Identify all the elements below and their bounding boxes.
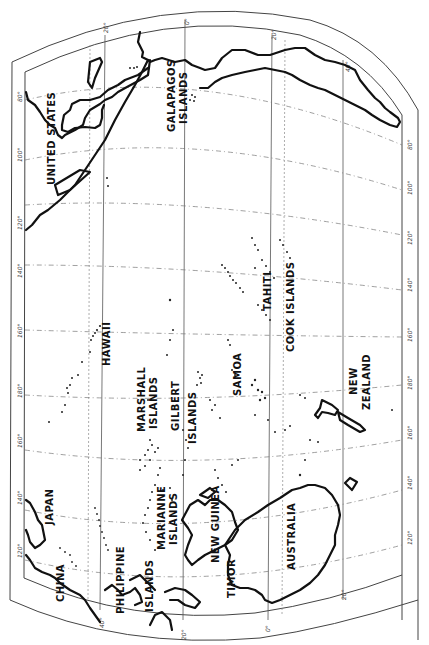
label-tahiti: TAHITI bbox=[262, 272, 273, 311]
svg-text:160°: 160° bbox=[406, 426, 413, 440]
coast-tasmania bbox=[345, 478, 357, 490]
svg-text:100°: 100° bbox=[16, 148, 23, 162]
coast-borneo bbox=[165, 588, 200, 608]
svg-text:80°: 80° bbox=[406, 139, 413, 150]
label-marianne-islands: ISLANDS bbox=[168, 493, 179, 545]
svg-text:20°: 20° bbox=[340, 589, 347, 600]
svg-text:120°: 120° bbox=[406, 231, 413, 245]
label-japan: JAPAN bbox=[44, 489, 55, 526]
svg-text:20°: 20° bbox=[270, 29, 277, 40]
label-philippine-islands: ISLANDS bbox=[144, 560, 155, 612]
label-united-states: UNITED STATES bbox=[46, 92, 57, 185]
svg-text:0°: 0° bbox=[264, 625, 271, 632]
coast-florida bbox=[88, 58, 102, 88]
label-australia: AUSTRALIA bbox=[286, 503, 297, 570]
coast-new-zealand-south bbox=[338, 412, 365, 432]
label-samoa: SAMOA bbox=[232, 353, 243, 396]
label-china: CHINA bbox=[55, 564, 66, 602]
label-timor: TIMOR bbox=[226, 559, 237, 598]
label-hawaii: HAWAII bbox=[101, 322, 112, 366]
coast-japan bbox=[26, 500, 45, 548]
longitude-tick-labels-left: 80° 100° 120° 140° 160° 180° 160° 140° 1… bbox=[16, 91, 23, 558]
label-cook-islands: COOK ISLANDS bbox=[285, 262, 296, 352]
label-galapagos-islands: ISLANDS bbox=[178, 72, 189, 124]
label-new-guinea: NEW GUINEA bbox=[210, 485, 221, 563]
svg-text:100°: 100° bbox=[406, 181, 413, 195]
svg-text:160°: 160° bbox=[406, 328, 413, 342]
svg-text:120°: 120° bbox=[16, 544, 23, 558]
label-new: NEW bbox=[348, 367, 359, 395]
label-marianne: MARIANNE bbox=[156, 486, 167, 550]
svg-text:140°: 140° bbox=[406, 278, 413, 292]
svg-text:180°: 180° bbox=[16, 384, 23, 398]
svg-text:0°: 0° bbox=[183, 18, 190, 25]
svg-text:140°: 140° bbox=[406, 476, 413, 490]
label-galapagos: GALAPAGOS bbox=[166, 59, 177, 132]
svg-text:140°: 140° bbox=[16, 264, 23, 278]
svg-text:180°: 180° bbox=[406, 376, 413, 390]
label-philippine: PHILIPPINE bbox=[115, 546, 126, 614]
label-zealand: ZEALAND bbox=[361, 354, 372, 410]
label-gilbert: GILBERT bbox=[170, 381, 181, 431]
label-marshall-islands: ISLANDS bbox=[148, 377, 159, 429]
label-gilbert-islands: ISLANDS bbox=[187, 392, 198, 444]
svg-text:140°: 140° bbox=[16, 491, 23, 505]
label-marshall: MARSHALL bbox=[136, 366, 147, 432]
svg-text:120°: 120° bbox=[406, 531, 413, 545]
svg-text:80°: 80° bbox=[16, 91, 23, 102]
coast-new-zealand-north bbox=[315, 400, 338, 418]
svg-text:160°: 160° bbox=[16, 434, 23, 448]
coast-sumatra bbox=[150, 612, 172, 630]
svg-text:120°: 120° bbox=[16, 216, 23, 230]
svg-text:20°: 20° bbox=[180, 629, 187, 640]
svg-text:20°: 20° bbox=[102, 22, 109, 33]
coast-baja bbox=[55, 170, 90, 195]
longitude-tick-labels-right: 80° 100° 120° 140° 160° 180° 160° 140° 1… bbox=[406, 139, 413, 545]
svg-text:160°: 160° bbox=[16, 324, 23, 338]
pacific-map: 80° 100° 120° 140° 160° 180° 160° 140° 1… bbox=[0, 0, 429, 645]
